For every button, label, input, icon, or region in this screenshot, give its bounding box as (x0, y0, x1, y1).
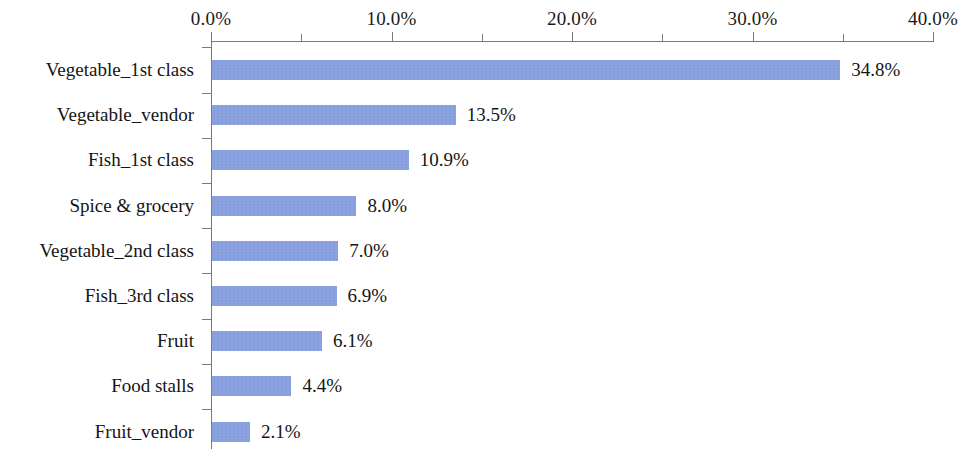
y-tick (202, 138, 211, 139)
bar (212, 286, 337, 306)
bar-texture (212, 422, 250, 442)
value-label: 6.1% (333, 330, 373, 352)
value-label: 7.0% (349, 240, 389, 262)
bar (212, 241, 338, 261)
value-label: 10.9% (420, 149, 469, 171)
bar-texture (212, 60, 840, 80)
y-tick (202, 273, 211, 274)
value-label: 6.9% (348, 285, 388, 307)
category-label: Vegetable_vendor (57, 104, 194, 126)
y-tick (202, 183, 211, 184)
bar-texture (212, 376, 291, 396)
x-tick-minor (843, 34, 844, 42)
bar (212, 376, 291, 396)
bar-texture (212, 105, 456, 125)
bar-texture (212, 241, 338, 261)
bar (212, 422, 250, 442)
x-tick-minor (662, 34, 663, 42)
category-label: Fish_3rd class (85, 285, 194, 307)
x-tick-major (933, 32, 934, 42)
x-tick-label-10: 10.0% (366, 8, 416, 30)
category-label: Food stalls (111, 375, 194, 397)
x-tick-major (211, 32, 212, 42)
x-tick-major (392, 32, 393, 42)
value-label: 4.4% (302, 375, 342, 397)
y-tick (202, 409, 211, 410)
category-label: Fruit (157, 330, 194, 352)
x-tick-label-40: 40.0% (908, 8, 958, 30)
value-label: 13.5% (467, 104, 516, 126)
x-tick-label-20: 20.0% (547, 8, 597, 30)
category-label: Spice & grocery (69, 195, 194, 217)
bar (212, 196, 356, 216)
x-tick-minor (482, 34, 483, 42)
value-label: 34.8% (851, 59, 900, 81)
bar (212, 105, 456, 125)
x-tick-major (753, 32, 754, 42)
y-tick (202, 47, 211, 48)
y-tick (202, 364, 211, 365)
x-tick-minor (301, 34, 302, 42)
y-tick (202, 93, 211, 94)
bar-texture (212, 331, 322, 351)
bar (212, 331, 322, 351)
x-tick-label-0: 0.0% (191, 8, 231, 30)
value-label: 2.1% (261, 421, 301, 443)
category-label: Vegetable_1st class (46, 59, 194, 81)
bar-chart: 0.0%10.0%20.0%30.0%40.0% Vegetable_1st c… (0, 0, 972, 449)
bar (212, 150, 409, 170)
value-label: 8.0% (367, 195, 407, 217)
y-tick (202, 228, 211, 229)
category-label: Fruit_vendor (95, 421, 194, 443)
bar-texture (212, 150, 409, 170)
category-label: Vegetable_2nd class (39, 240, 194, 262)
y-tick (202, 319, 211, 320)
x-tick-label-30: 30.0% (727, 8, 777, 30)
category-label: Fish_1st class (88, 149, 194, 171)
bar (212, 60, 840, 80)
bar-texture (212, 196, 356, 216)
x-tick-major (572, 32, 573, 42)
bar-texture (212, 286, 337, 306)
